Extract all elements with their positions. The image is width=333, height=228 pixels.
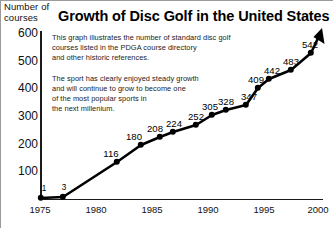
data-point-label: 442 xyxy=(264,65,280,76)
chart-figure: Number of courses Growth of Disc Golf in… xyxy=(0,0,333,228)
data-point-label: 1 xyxy=(42,184,47,193)
annotation-paragraph-2: The sport has clearly enjoyed steady gro… xyxy=(52,74,217,114)
data-point-label: 483 xyxy=(283,56,299,67)
data-point-label: 116 xyxy=(103,148,118,159)
annotation-paragraph-1: This graph illustrates the number of sta… xyxy=(52,33,232,63)
data-point-label: 224 xyxy=(166,118,182,129)
data-point-label: 328 xyxy=(218,96,234,107)
data-point-label: 208 xyxy=(147,123,163,134)
data-point-label: 542 xyxy=(302,39,318,50)
data-point-label: 409 xyxy=(248,74,264,85)
data-point-label: 180 xyxy=(126,131,142,142)
data-point-label: 347 xyxy=(241,91,257,102)
plot-area: 600 500 400 300 200 100 1975 1980 1985 1… xyxy=(0,0,333,228)
data-point-label: 3 xyxy=(62,183,67,192)
